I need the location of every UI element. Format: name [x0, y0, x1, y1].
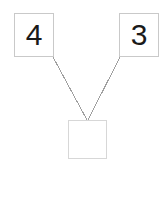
addend-right-value: 3	[131, 20, 148, 50]
number-bond-diagram: 4 3	[0, 0, 168, 197]
connector-left-to-sum	[53, 57, 87, 120]
addend-left-value: 4	[26, 20, 43, 50]
connector-right-to-sum	[88, 57, 120, 120]
sum-box[interactable]	[68, 120, 107, 159]
addend-left-box[interactable]: 4	[14, 13, 54, 57]
addend-right-box[interactable]: 3	[119, 13, 159, 57]
